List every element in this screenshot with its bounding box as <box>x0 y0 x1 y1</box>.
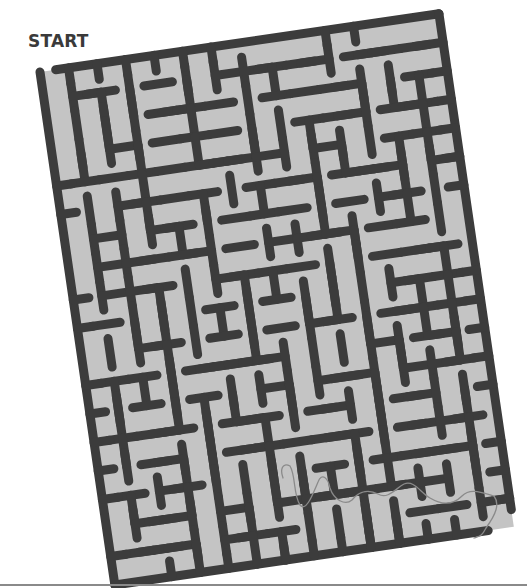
maze-wall <box>325 30 327 46</box>
maze-wall <box>477 384 493 386</box>
maze-wall <box>398 528 400 544</box>
maze-wall <box>436 99 452 101</box>
maze-wall <box>465 299 481 301</box>
maze-wall <box>61 212 77 214</box>
maze-wall <box>211 47 213 63</box>
maze-wall <box>98 469 114 471</box>
maze-grid <box>40 14 514 585</box>
maze-wall <box>415 42 443 46</box>
maze-wall <box>86 383 102 385</box>
maze-board[interactable] <box>0 0 527 588</box>
maze-wall <box>170 561 172 577</box>
maze-wall <box>154 55 156 71</box>
maze-wall <box>473 356 489 358</box>
maze-wall <box>193 326 197 354</box>
maze-wall <box>438 203 442 231</box>
maze-wall <box>348 391 352 419</box>
maze-wall <box>369 532 371 548</box>
maze-wall <box>336 199 364 203</box>
maze-wall <box>253 536 257 564</box>
maze-wall <box>230 175 234 203</box>
maze-wall <box>438 505 466 509</box>
maze-wall <box>90 412 106 414</box>
maze-wall <box>469 327 485 329</box>
maze-wall <box>226 244 254 248</box>
bottom-rule <box>0 584 527 586</box>
maze-wall <box>324 317 352 321</box>
maze-wall <box>426 524 428 540</box>
maze-wall <box>341 536 343 552</box>
maze-wall <box>291 399 295 427</box>
maze-wall <box>94 440 110 442</box>
maze-wall <box>263 297 291 301</box>
maze-wall <box>196 544 200 572</box>
maze-wall <box>73 298 89 300</box>
maze-wall <box>353 26 355 42</box>
maze-wall <box>461 270 477 272</box>
maze-wall <box>444 156 460 158</box>
maze-wall <box>133 404 161 408</box>
maze-wall <box>432 71 448 73</box>
maze-wall <box>287 265 315 269</box>
maze-wall <box>368 126 372 154</box>
maze-wall <box>210 334 238 338</box>
maze-wall <box>165 428 193 432</box>
maze-wall <box>283 138 287 166</box>
maze-wall <box>446 464 450 492</box>
maze-wall <box>125 453 129 481</box>
maze-wall <box>267 326 295 330</box>
maze-wall <box>312 540 314 556</box>
maze-wall <box>490 470 506 472</box>
maze-wall <box>205 102 233 106</box>
maze-wall <box>455 519 457 535</box>
maze-wall <box>279 208 307 212</box>
maze-wall <box>144 82 172 86</box>
maze-wall <box>125 60 127 76</box>
maze-wall <box>227 553 229 569</box>
maze-wall <box>182 51 184 67</box>
maze-wall <box>397 220 425 224</box>
maze-wall <box>448 185 464 187</box>
maze-wall <box>57 184 73 186</box>
maze-wall <box>440 128 456 130</box>
maze-wall <box>209 130 237 134</box>
maze-wall <box>108 339 112 367</box>
maze-wall <box>486 441 502 443</box>
maze-wall <box>284 544 286 560</box>
maze-wall <box>97 64 99 80</box>
maze-wall <box>102 497 118 499</box>
maze-wall <box>340 334 344 362</box>
maze-wall <box>68 68 70 84</box>
maze-wall <box>77 326 93 328</box>
maze-wall <box>111 554 127 556</box>
